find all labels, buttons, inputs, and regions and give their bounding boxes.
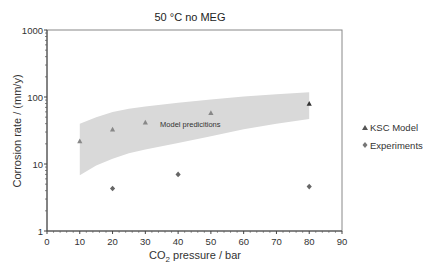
y-tick-label: 1 [38, 226, 43, 237]
x-tick-label: 20 [107, 236, 118, 247]
y-axis-label: Corrosion rate / (mm/y) [11, 74, 23, 187]
x-tick-label: 50 [206, 236, 217, 247]
x-tick-label: 80 [304, 236, 315, 247]
diamond-marker-icon [363, 142, 368, 148]
svg-text:Experiments: Experiments [370, 140, 423, 151]
svg-text:KSC Model: KSC Model [370, 122, 418, 133]
model-predictions-band [80, 92, 309, 175]
y-tick-label: 10 [32, 159, 43, 170]
y-tick-label: 1000 [22, 25, 43, 36]
x-tick-label: 70 [271, 236, 282, 247]
y-tick-label: 100 [27, 92, 43, 103]
legend-item-experiments: Experiments [363, 140, 424, 151]
x-tick-label: 60 [238, 236, 249, 247]
x-tick-label: 10 [74, 236, 85, 247]
chart-title: 50 °C no MEG [154, 11, 225, 23]
x-tick-label: 40 [173, 236, 184, 247]
legend: KSC Model Experiments [362, 122, 423, 151]
legend-item-ksc-model: KSC Model [362, 122, 418, 133]
band-area [80, 92, 309, 175]
x-tick-label: 90 [337, 236, 348, 247]
band-annotation: Model predicitions [160, 120, 221, 129]
x-tick-label: 0 [44, 236, 49, 247]
experiment-point [176, 172, 181, 178]
triangle-marker-icon [362, 125, 368, 130]
experiment-point [110, 186, 115, 192]
x-tick-label: 30 [140, 236, 151, 247]
x-axis-label: CO2 pressure / bar [149, 249, 241, 264]
experiment-point [307, 184, 312, 190]
chart-canvas: 50 °C no MEG Model predicitions 01020304… [0, 0, 432, 272]
